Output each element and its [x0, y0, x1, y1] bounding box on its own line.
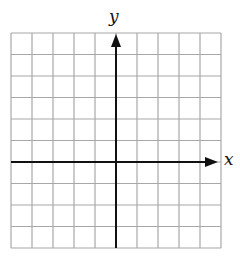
x-axis-label: x: [224, 151, 234, 168]
x-axis-arrow-icon: [205, 157, 218, 167]
y-axis-label: y: [109, 8, 119, 25]
grid-canvas: [0, 0, 240, 258]
y-axis-arrow-icon: [111, 34, 121, 47]
